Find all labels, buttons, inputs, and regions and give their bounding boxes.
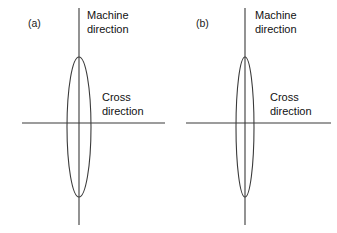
panel-b-label: (b) [196, 17, 209, 29]
machine-direction-label-line2: direction [255, 22, 297, 36]
panel-a: (a) Machine direction Cross direction [0, 0, 168, 233]
machine-direction-label-line2: direction [87, 22, 129, 36]
panel-a-machine-direction-label: Machine direction [87, 8, 129, 36]
panel-a-cross-direction-label: Cross direction [102, 90, 144, 118]
panel-a-label: (a) [28, 17, 41, 29]
panel-b-machine-direction-label: Machine direction [255, 8, 297, 36]
orientation-diagram-figure: (a) Machine direction Cross direction (b… [0, 0, 337, 233]
cross-direction-label-line2: direction [102, 104, 144, 118]
panel-b-cross-direction-label: Cross direction [270, 90, 312, 118]
panel-b: (b) Machine direction Cross direction [168, 0, 336, 233]
machine-direction-label-line1: Machine [87, 8, 129, 22]
cross-direction-label-line2: direction [270, 104, 312, 118]
machine-direction-label-line1: Machine [255, 8, 297, 22]
cross-direction-label-line1: Cross [270, 90, 312, 104]
cross-direction-label-line1: Cross [102, 90, 144, 104]
